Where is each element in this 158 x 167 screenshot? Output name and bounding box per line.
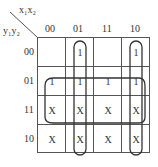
group-loop-column-10: [130, 41, 142, 155]
grouping-loops: [0, 0, 158, 167]
group-loop-column-01: [74, 41, 86, 155]
